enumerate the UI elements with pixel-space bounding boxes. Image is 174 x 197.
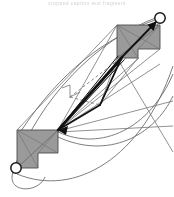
obstacle-bottom-left xyxy=(17,130,58,168)
node-top-right[interactable] xyxy=(155,13,165,23)
figure-root: cropped caption text fragment xyxy=(0,0,174,197)
thin-edge xyxy=(117,58,173,152)
thin-edge xyxy=(58,126,173,132)
diagram-canvas xyxy=(0,0,174,197)
obstacle-top-right xyxy=(117,25,160,58)
thick-edge-fan-b xyxy=(60,60,124,129)
curve-outer-lower xyxy=(17,66,173,181)
thick-edge-fan-a xyxy=(58,56,118,130)
node-bottom-left[interactable] xyxy=(11,163,21,173)
